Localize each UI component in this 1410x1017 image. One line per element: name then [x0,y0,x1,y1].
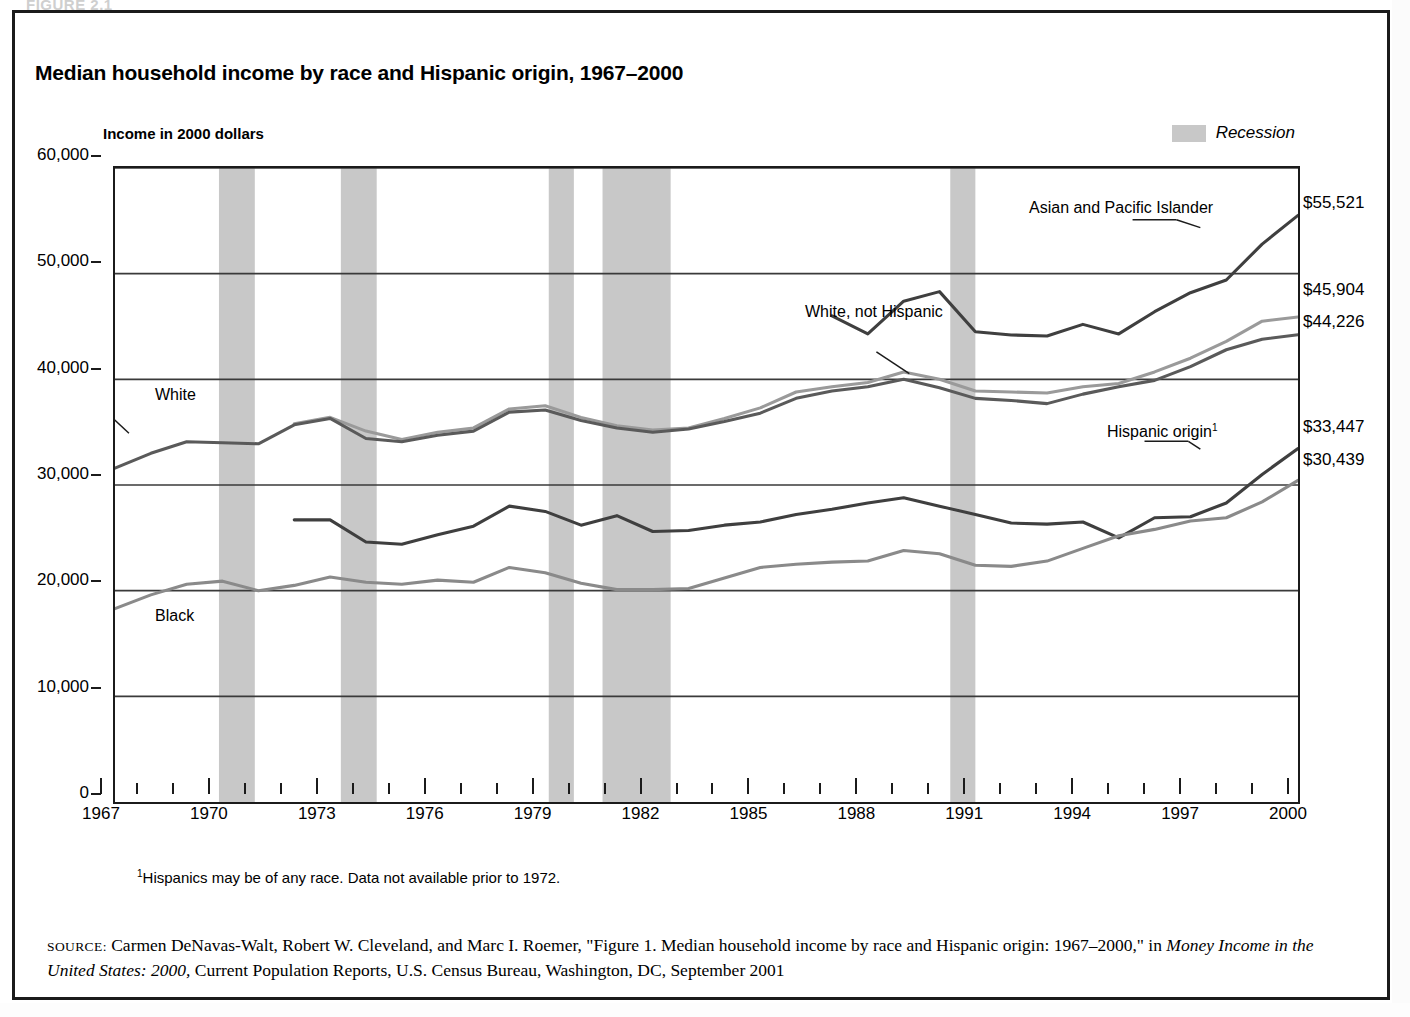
y-axis-tick-mark [91,261,101,263]
annot-black: Black [155,607,194,625]
x-axis-tick-mark-1996 [1143,783,1145,794]
x-axis-tick-mark-1995 [1107,783,1109,794]
y-axis-tick-label-20000: 20,000 [15,570,89,590]
x-axis-tick-label-1988: 1988 [816,804,896,824]
x-axis-tick-mark-2000 [1287,778,1289,794]
y-axis-tick-label-40000: 40,000 [15,358,89,378]
x-axis-tick-mark-1997 [1179,778,1181,794]
scan-edge-bottom [0,1003,1410,1017]
recession-swatch-icon [1172,125,1206,142]
y-axis-tick-mark [91,687,101,689]
scan-edge-right [1392,0,1410,1017]
annot-white-text: White [155,386,196,403]
source-key: SOURCE: [47,939,107,954]
figure-card: Median household income by race and Hisp… [12,10,1390,1000]
x-axis-tick-mark-1975 [388,783,390,794]
x-axis-tick-mark-1978 [496,783,498,794]
footnote-text: Hispanics may be of any race. Data not a… [143,869,561,886]
y-axis-tick-mark [91,580,101,582]
y-axis-tick-mark [91,368,101,370]
annotation-leader-line-6 [115,404,129,434]
source-text-part2: Current Population Reports, U.S. Census … [190,960,784,980]
annot-white: White [155,386,196,404]
x-axis-tick-mark-1985 [747,778,749,794]
x-axis-tick-label-1970: 1970 [169,804,249,824]
x-axis-tick-mark-1994 [1071,778,1073,794]
x-axis-tick-mark-1968 [136,783,138,794]
x-axis-tick-mark-1982 [640,778,642,794]
x-axis-tick-mark-1990 [927,783,929,794]
x-axis-tick-mark-1998 [1215,783,1217,794]
x-axis-tick-mark-1974 [352,783,354,794]
x-axis-tick-mark-1979 [532,778,534,794]
annotation-leader-line-3 [876,352,909,374]
y-axis-tick-mark [91,155,101,157]
chart-svg [115,168,1298,802]
scan-edge-top [0,0,930,10]
x-axis-tick-mark-1971 [244,783,246,794]
annot-hispanic-origin: Hispanic origin1 [1107,422,1218,441]
x-axis-tick-label-1997: 1997 [1140,804,1220,824]
x-axis-tick-mark-1987 [819,783,821,794]
x-axis-tick-mark-1980 [568,783,570,794]
y-axis-tick-label-30000: 30,000 [15,464,89,484]
x-axis-tick-mark-1984 [711,783,713,794]
x-axis-tick-label-1994: 1994 [1032,804,1112,824]
y-axis-tick-label-10000: 10,000 [15,677,89,697]
y-axis-tick-label-50000: 50,000 [15,251,89,271]
annot-hispanic-origin-text: Hispanic origin [1107,423,1212,440]
x-axis-tick-label-1979: 1979 [493,804,573,824]
annot-white-not-hispanic: White, not Hispanic [805,303,943,321]
y-axis-tick-mark [91,474,101,476]
x-axis-tick-mark-1969 [172,783,174,794]
footnote: 1Hispanics may be of any race. Data not … [137,868,560,886]
x-axis-tick-mark-1988 [855,778,857,794]
x-axis-tick-label-1973: 1973 [277,804,357,824]
annot-asian-and-pacific-islander: Asian and Pacific Islander [1029,199,1213,217]
x-axis-tick-label-1967: 1967 [61,804,141,824]
series-line-white [115,335,1298,468]
x-axis-tick-mark-1981 [604,783,606,794]
white-not-hispanic-value: $45,904 [1303,280,1364,300]
black-value: $30,439 [1303,450,1364,470]
white-value: $44,226 [1303,312,1364,332]
chart-plot-area [113,166,1300,804]
series-line-black [115,480,1298,608]
x-axis-tick-mark-1976 [424,778,426,794]
x-axis-tick-label-1982: 1982 [601,804,681,824]
x-axis-tick-mark-1972 [280,783,282,794]
y-axis-tick-label-60000: 60,000 [15,145,89,165]
x-axis-tick-mark-1986 [783,783,785,794]
asian-and-pacific-islander-value: $55,521 [1303,193,1364,213]
legend-item-recession: Recession [1216,123,1295,143]
annotation-leader-line-5 [1188,441,1200,449]
x-axis-tick-mark-1992 [999,783,1001,794]
x-axis-tick-mark-1967 [100,778,102,794]
y-axis-tick-label-0: 0 [15,783,89,803]
x-axis-tick-label-1985: 1985 [708,804,788,824]
x-axis-tick-mark-1993 [1035,783,1037,794]
x-axis-tick-mark-1991 [963,778,965,794]
source-text-part1: Carmen DeNavas-Walt, Robert W. Cleveland… [107,935,1167,955]
x-axis-tick-mark-1999 [1251,783,1253,794]
x-axis-tick-mark-1970 [208,778,210,794]
x-axis-tick-mark-1977 [460,783,462,794]
legend: Recession [1172,123,1295,143]
y-axis-units-label: Income in 2000 dollars [103,125,264,142]
x-axis-tick-label-1991: 1991 [924,804,1004,824]
x-axis-tick-label-1976: 1976 [385,804,465,824]
x-axis-tick-mark-1973 [316,778,318,794]
annot-white-not-hispanic-text: White, not Hispanic [805,303,943,320]
hispanic-origin-value: $33,447 [1303,417,1364,437]
annotation-leader-line-2 [1176,220,1200,228]
annot-hispanic-origin-footnote-marker: 1 [1212,422,1218,433]
x-axis-tick-mark-1983 [676,783,678,794]
x-axis-tick-mark-1989 [891,783,893,794]
x-axis-tick-label-2000: 2000 [1248,804,1328,824]
source-note: SOURCE: Carmen DeNavas-Walt, Robert W. C… [47,933,1337,983]
page-title: Median household income by race and Hisp… [35,61,683,85]
annot-asian-and-pacific-islander-text: Asian and Pacific Islander [1029,199,1213,216]
annot-black-text: Black [155,607,194,624]
